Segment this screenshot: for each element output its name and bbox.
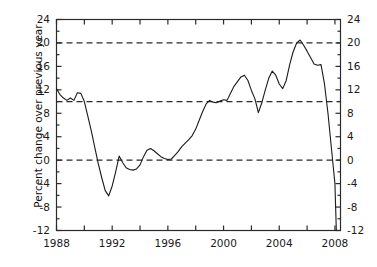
y-axis-left-tick-label: -8 [16,202,50,213]
y-axis-right-tick-label: 0 [347,155,377,166]
y-axis-left-tick-label: 24 [16,14,50,25]
y-axis-left-tick-label: 16 [16,61,50,72]
x-axis-tick-label: 2000 [201,238,247,249]
y-axis-right-tick-label: -12 [347,225,377,236]
x-axis-tick-label: 1996 [145,238,191,249]
y-axis-right-tick-label: 24 [347,14,377,25]
y-axis-right-tick-label: 16 [347,61,377,72]
y-axis-left-tick-label: 12 [16,84,50,95]
y-axis-left-tick-label: 0 [16,155,50,166]
x-axis-tick-label: 2008 [312,238,358,249]
plot-frame [57,20,341,231]
y-axis-left-tick-label: -4 [16,178,50,189]
y-axis-left-tick-label: 20 [16,37,50,48]
y-axis-right-tick-label: 4 [347,131,377,142]
y-axis-left-tick-label: 8 [16,108,50,119]
y-axis-left-tick-label: -12 [16,225,50,236]
chart-container: Percent change over previous year 242016… [0,0,377,267]
y-axis-right-tick-label: 12 [347,84,377,95]
x-axis-tick-label: 1992 [89,238,135,249]
plot-border [57,20,341,231]
y-axis-left-tick-label: 4 [16,131,50,142]
y-axis-right-tick-label: -4 [347,178,377,189]
y-axis-right-tick-label: 20 [347,37,377,48]
y-axis-right-tick-label: -8 [347,202,377,213]
x-axis-tick-label: 2004 [256,238,302,249]
x-axis-tick-label: 1988 [34,238,80,249]
chart-plot-area [0,0,377,267]
y-axis-right-tick-label: 8 [347,108,377,119]
